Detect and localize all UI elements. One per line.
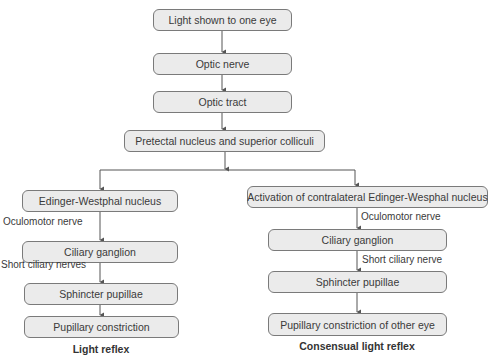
box-activation-contralateral: Activation of contralateral Edinger-Wesp… — [247, 186, 488, 208]
box-sphincter-pupillae-left: Sphincter pupillae — [24, 283, 178, 305]
box-label: Sphincter pupillae — [316, 276, 399, 288]
box-optic-tract: Optic tract — [153, 91, 292, 113]
box-label: Sphincter pupillae — [59, 288, 142, 300]
box-sphincter-pupillae-right: Sphincter pupillae — [268, 271, 447, 293]
box-label: Edinger-Westphal nucleus — [39, 195, 161, 207]
caption-light-reflex: Light reflex — [73, 343, 130, 355]
box-ciliary-ganglion-right: Ciliary ganglion — [268, 229, 447, 251]
box-light-shown: Light shown to one eye — [153, 9, 292, 31]
box-label: Pupillary constriction — [53, 321, 149, 333]
edge-label-short-ciliary-left: Short ciliary nerves — [1, 259, 86, 270]
box-pretectal-nucleus: Pretectal nucleus and superior colliculi — [124, 130, 325, 152]
box-label: Optic nerve — [196, 58, 250, 70]
box-label: Ciliary ganglion — [64, 246, 136, 258]
edge-label-short-ciliary-right: Short ciliary nerve — [362, 254, 442, 265]
box-label: Light shown to one eye — [169, 14, 277, 26]
box-label: Activation of contralateral Edinger-Wesp… — [247, 191, 487, 203]
box-pupillary-constriction: Pupillary constriction — [24, 316, 179, 338]
box-label: Pupillary constriction of other eye — [280, 319, 435, 331]
box-edinger-westphal: Edinger-Westphal nucleus — [22, 190, 178, 212]
box-label: Pretectal nucleus and superior colliculi — [135, 135, 314, 147]
edge-label-oculomotor-right: Oculomotor nerve — [361, 211, 440, 222]
caption-consensual-light-reflex: Consensual light reflex — [299, 340, 415, 352]
edge-label-oculomotor-left: Oculomotor nerve — [3, 216, 82, 227]
box-label: Ciliary ganglion — [322, 234, 394, 246]
box-pupillary-constriction-other-eye: Pupillary constriction of other eye — [268, 313, 447, 336]
box-optic-nerve: Optic nerve — [153, 53, 292, 75]
box-label: Optic tract — [199, 96, 247, 108]
